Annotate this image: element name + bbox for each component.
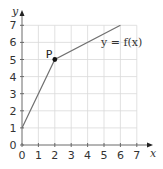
x-tick-label: 5 xyxy=(101,149,108,162)
x-tick-label: 2 xyxy=(51,149,58,162)
x-tick-label: 6 xyxy=(117,149,124,162)
y-axis-arrow-icon xyxy=(20,10,25,16)
x-axis-label: x xyxy=(150,147,157,160)
y-tick-label: 0 xyxy=(10,139,17,152)
x-tick-label: 7 xyxy=(133,149,140,162)
y-axis-label: y xyxy=(11,5,19,18)
point-p-label: P xyxy=(46,48,53,61)
y-tick-label: 6 xyxy=(10,36,17,49)
y-tick-label: 2 xyxy=(10,105,17,118)
annotations: x y y = f(x) P xyxy=(11,5,157,160)
function-graph: 0123456701234567 x y y = f(x) P xyxy=(0,0,163,169)
x-tick-label: 3 xyxy=(68,149,75,162)
y-tick-label: 3 xyxy=(10,88,17,101)
y-tick-label: 5 xyxy=(10,54,17,67)
point-p-marker xyxy=(52,57,57,62)
x-tick-label: 0 xyxy=(19,149,26,162)
y-tick-label: 4 xyxy=(10,71,17,84)
x-tick-label: 4 xyxy=(84,149,91,162)
x-tick-label: 1 xyxy=(35,149,42,162)
y-tick-label: 1 xyxy=(10,122,17,135)
curve-label: y = f(x) xyxy=(100,36,142,49)
axes xyxy=(20,10,154,148)
y-tick-label: 7 xyxy=(10,19,17,32)
